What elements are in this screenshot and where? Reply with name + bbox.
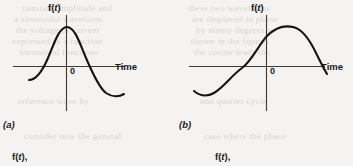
figure-a-origin-label: 0 [70,66,75,76]
figure-page: constant amplitude anda sinusoidal wavef… [0,0,353,166]
bleed-text-line: case where the phase [204,131,286,141]
bleed-text-line: consider now the general [24,131,121,141]
figure-a-cosine-waveform: f(t) Time 0 [0,0,176,125]
figure-a-y-axis-label: f(t) [48,2,61,13]
next-figure-label-left: f(t), [12,151,27,162]
figure-b-caption: (b) [179,119,191,130]
figure-a-svg [0,0,176,125]
figure-b-curve [194,26,327,95]
figure-b-origin-label: 0 [270,66,275,76]
figure-b-y-axis-label: f(t) [251,2,264,13]
figure-b-sine-waveform: f(t) Time 0 [176,0,353,125]
next-figure-label-right: f(t), [215,151,230,162]
figure-b-x-axis-label: Time [321,61,343,72]
figure-a-caption: (a) [3,119,15,130]
figure-a-x-axis-label: Time [115,61,137,72]
figure-a-curve [29,27,124,96]
